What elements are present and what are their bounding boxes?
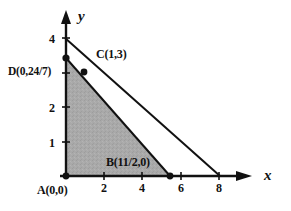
point-D [62, 54, 69, 61]
y-axis-label: y [78, 9, 85, 24]
point-C [81, 69, 88, 76]
y-axis-arrowhead [61, 10, 71, 24]
y-tick-label-1: 1 [46, 137, 58, 149]
coordinate-plot [0, 0, 291, 211]
x-tick-label-6: 6 [175, 182, 187, 194]
point-label-A: A(0,0) [37, 184, 67, 196]
y-tick-label-4: 4 [46, 33, 58, 45]
point-label-D: D(0,24/7) [8, 66, 51, 78]
x-tick-label-8: 8 [213, 182, 225, 194]
point-label-C: C(1,3) [96, 48, 126, 60]
point-label-B: B(11/2,0) [106, 156, 150, 168]
graph-figure: x y 2 4 6 8 1 2 4 C(1,3) D(0,24/7) B(11/… [0, 0, 291, 211]
x-axis-label: x [264, 168, 272, 183]
x-axis-arrowhead [236, 171, 252, 181]
point-B [167, 173, 174, 180]
y-tick-label-2: 2 [46, 102, 58, 114]
x-tick-label-4: 4 [136, 182, 148, 194]
point-A [63, 173, 70, 180]
x-tick-label-2: 2 [98, 182, 110, 194]
